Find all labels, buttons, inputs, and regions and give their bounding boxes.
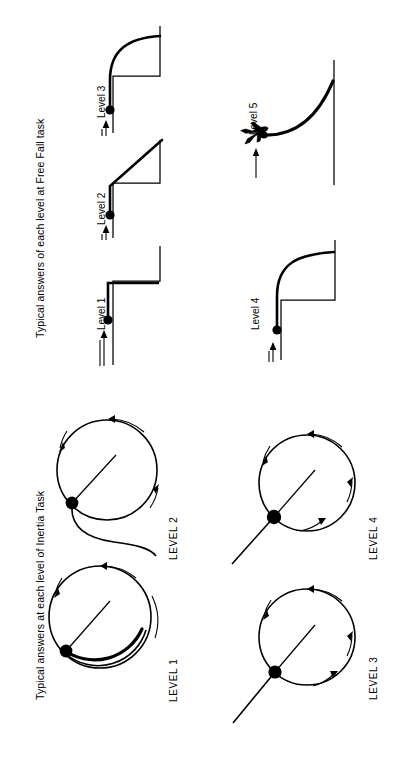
inertia-level-4-rotation-arrow-top [262, 446, 270, 466]
figure-canvas: Typical answers of each level at Free Fa… [0, 0, 400, 768]
inertia-level-4-ball [267, 510, 281, 524]
